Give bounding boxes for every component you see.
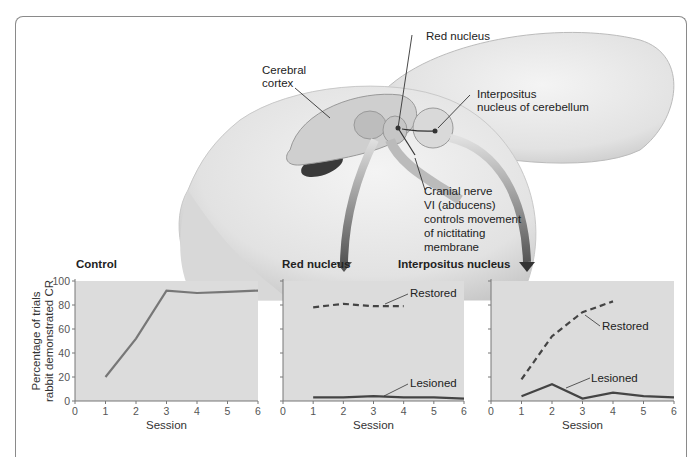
svg-text:Percentage of trials: Percentage of trials: [30, 291, 42, 390]
svg-text:5: 5: [641, 405, 647, 417]
svg-text:Session: Session: [353, 419, 394, 431]
svg-text:0: 0: [64, 395, 70, 407]
svg-text:0: 0: [72, 405, 78, 417]
svg-text:40: 40: [58, 347, 70, 359]
svg-text:Session: Session: [562, 419, 603, 431]
svg-text:Session: Session: [146, 419, 187, 431]
svg-text:4: 4: [401, 405, 407, 417]
svg-text:80: 80: [58, 299, 70, 311]
svg-text:2: 2: [549, 405, 555, 417]
legend-red-lesioned: Lesioned: [410, 377, 457, 391]
svg-text:1: 1: [310, 405, 316, 417]
plot-area: [491, 281, 674, 401]
svg-text:6: 6: [255, 405, 261, 417]
legend-int-restored: Restored: [602, 320, 649, 334]
svg-text:3: 3: [371, 405, 377, 417]
svg-text:0: 0: [488, 405, 494, 417]
svg-text:2: 2: [133, 405, 139, 417]
svg-text:60: 60: [58, 323, 70, 335]
svg-text:rabbit demonstrated CR: rabbit demonstrated CR: [43, 280, 55, 402]
svg-text:3: 3: [164, 405, 170, 417]
svg-text:1: 1: [103, 405, 109, 417]
svg-text:100: 100: [52, 275, 70, 287]
legend-int-lesioned: Lesioned: [591, 372, 638, 386]
svg-text:5: 5: [431, 405, 437, 417]
svg-text:1: 1: [519, 405, 525, 417]
svg-text:6: 6: [671, 405, 677, 417]
svg-text:4: 4: [194, 405, 200, 417]
svg-text:3: 3: [580, 405, 586, 417]
svg-text:2: 2: [340, 405, 346, 417]
svg-text:6: 6: [461, 405, 467, 417]
svg-text:5: 5: [225, 405, 231, 417]
svg-text:4: 4: [610, 405, 616, 417]
svg-text:20: 20: [58, 371, 70, 383]
legend-red-restored: Restored: [410, 287, 457, 301]
svg-text:0: 0: [280, 405, 286, 417]
plot-area: [75, 281, 258, 401]
